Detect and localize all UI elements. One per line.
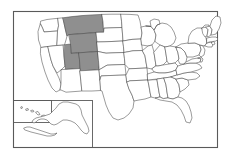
state-NM[interactable] — [80, 70, 101, 91]
state-AK-aleutians[interactable] — [24, 127, 57, 136]
state-NE[interactable] — [97, 41, 124, 53]
state-AK[interactable] — [32, 102, 89, 134]
state-CO[interactable] — [79, 52, 99, 71]
state-MN[interactable] — [121, 14, 142, 41]
state-FL[interactable] — [155, 97, 192, 123]
us-states-map — [0, 0, 231, 161]
map-canvas — [0, 0, 231, 161]
state-ME[interactable] — [210, 16, 221, 35]
state-RI[interactable] — [212, 42, 215, 46]
state-AZ[interactable] — [60, 69, 82, 93]
state-WY[interactable] — [69, 33, 98, 54]
inset-alaska[interactable] — [24, 102, 89, 136]
